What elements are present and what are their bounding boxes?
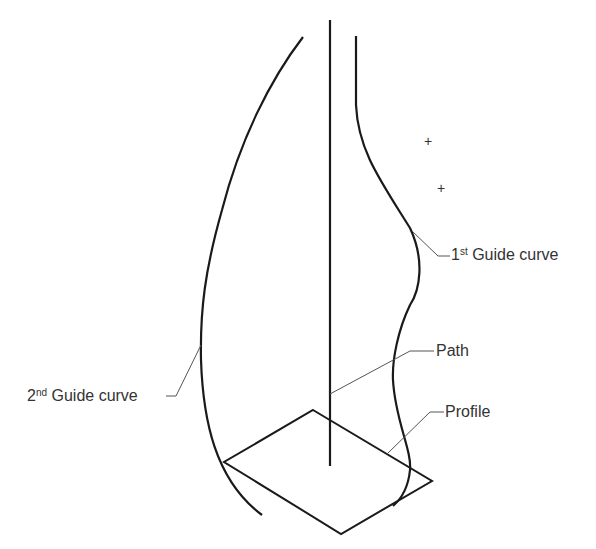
path-leader	[330, 351, 434, 394]
second-guide-leader	[166, 345, 201, 396]
second-guide-num: 2	[27, 387, 36, 404]
path-label: Path	[436, 342, 469, 360]
first-guide-sup: st	[460, 246, 468, 257]
first-guide-curve	[356, 36, 419, 506]
profile-label: Profile	[445, 403, 490, 421]
first-guide-num: 1	[451, 246, 460, 263]
second-guide-sup: nd	[36, 387, 47, 398]
sweep-diagram: + +	[0, 0, 596, 549]
first-guide-label: 1st Guide curve	[451, 246, 558, 264]
plus-marker-2: +	[437, 180, 445, 196]
second-guide-label: 2nd Guide curve	[27, 387, 138, 405]
plus-marker-1: +	[424, 133, 432, 149]
profile-leader	[388, 412, 444, 453]
second-guide-curve	[201, 37, 303, 515]
second-guide-text: Guide curve	[51, 387, 137, 404]
first-guide-text: Guide curve	[472, 246, 558, 263]
